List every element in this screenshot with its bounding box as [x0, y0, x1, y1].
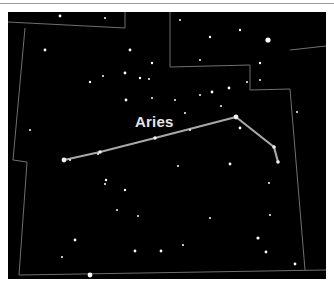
star: [265, 37, 270, 42]
constellation-boundary: [8, 12, 125, 28]
star: [124, 72, 127, 75]
constellation-boundary: [170, 12, 305, 270]
star: [88, 273, 93, 278]
star: [211, 91, 214, 94]
star: [209, 217, 211, 219]
star: [177, 165, 179, 167]
star: [151, 62, 153, 64]
star: [179, 19, 181, 21]
star: [259, 79, 261, 81]
star: [182, 244, 184, 246]
star: [160, 250, 163, 253]
star: [199, 94, 201, 96]
star: [116, 209, 118, 211]
star: [209, 36, 211, 38]
constellation-label: Aries: [135, 113, 174, 130]
star: [97, 153, 99, 155]
star: [189, 129, 191, 131]
star: [228, 87, 231, 90]
star: [134, 250, 137, 253]
star: [104, 183, 106, 185]
star: [69, 159, 71, 161]
star: [137, 215, 139, 217]
star: [61, 256, 63, 258]
star: [265, 251, 268, 254]
constellation-star: [272, 145, 276, 149]
star: [269, 214, 271, 216]
star: [44, 49, 47, 52]
constellation-boundary: [290, 46, 326, 50]
star: [184, 112, 186, 114]
star: [124, 189, 126, 191]
star: [102, 75, 104, 77]
star: [220, 105, 222, 107]
constellation-star: [234, 115, 239, 120]
star: [59, 15, 62, 18]
star: [148, 78, 150, 80]
constellation-star: [62, 158, 67, 163]
star: [239, 29, 241, 31]
star: [256, 236, 259, 239]
star: [151, 97, 153, 99]
sky-svg: [0, 0, 334, 287]
star: [105, 179, 107, 181]
star: [239, 127, 242, 130]
star: [296, 111, 298, 113]
star: [229, 163, 232, 166]
star: [259, 62, 261, 64]
star: [89, 81, 91, 83]
star: [268, 182, 270, 184]
star: [246, 81, 248, 83]
constellation-boundary: [13, 28, 326, 275]
star: [29, 129, 31, 131]
star: [74, 239, 77, 242]
constellation-star: [98, 150, 102, 154]
star: [174, 99, 176, 101]
constellation-star: [153, 136, 157, 140]
star: [199, 59, 201, 61]
star: [104, 17, 106, 19]
star: [125, 99, 128, 102]
constellation-star: [276, 160, 280, 164]
star: [129, 49, 132, 52]
star: [294, 263, 297, 266]
star: [139, 77, 141, 79]
